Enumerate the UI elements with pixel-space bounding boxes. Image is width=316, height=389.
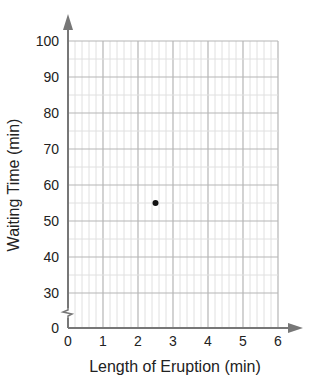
y-tick-label: 0 xyxy=(51,320,59,336)
x-tick-label: 1 xyxy=(99,333,107,349)
x-tick-label: 0 xyxy=(64,333,72,349)
y-tick-label: 50 xyxy=(43,213,59,229)
axes xyxy=(63,14,303,333)
y-axis-label: Waiting Time (min) xyxy=(5,119,22,252)
y-tick-label: 40 xyxy=(43,249,59,265)
y-axis-arrow-icon xyxy=(63,14,73,30)
x-tick-label: 4 xyxy=(204,333,212,349)
grid xyxy=(68,41,278,328)
data-point xyxy=(153,200,159,206)
x-tick-label: 5 xyxy=(239,333,247,349)
y-tick-label: 100 xyxy=(36,33,60,49)
y-tick-label: 60 xyxy=(43,177,59,193)
scatter-chart: 0123456030405060708090100 Length of Erup… xyxy=(0,0,316,389)
x-tick-label: 3 xyxy=(169,333,177,349)
y-tick-label: 70 xyxy=(43,141,59,157)
x-axis-label: Length of Eruption (min) xyxy=(89,358,261,375)
y-tick-label: 80 xyxy=(43,105,59,121)
data-points xyxy=(153,200,159,206)
y-tick-label: 90 xyxy=(43,69,59,85)
x-tick-label: 2 xyxy=(134,333,142,349)
x-tick-label: 6 xyxy=(274,333,282,349)
y-tick-label: 30 xyxy=(43,285,59,301)
x-axis-arrow-icon xyxy=(288,323,303,333)
